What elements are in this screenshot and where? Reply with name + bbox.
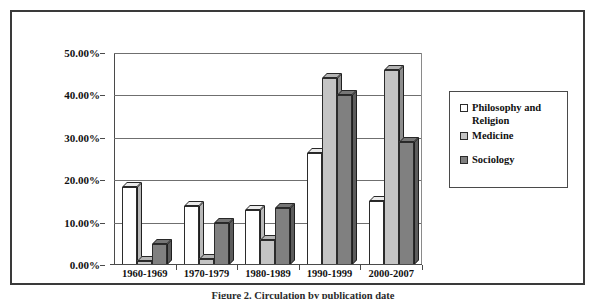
bar-slot [260, 53, 275, 265]
figure-container: 0.00%10.00%20.00%30.00%40.00%50.00% 1960… [0, 0, 606, 299]
x-axis-tick-label: 1970-1979 [184, 268, 230, 279]
bar-slot [152, 53, 167, 265]
bar-slot [275, 53, 290, 265]
bar-slot [384, 53, 399, 265]
y-axis-tick-mark [100, 180, 105, 181]
bar[interactable] [260, 240, 275, 265]
legend-label: Medicine [472, 129, 513, 142]
bar-group [114, 53, 176, 265]
bar-slot [322, 53, 337, 265]
bar[interactable] [245, 210, 260, 265]
y-axis-tick-mark [100, 95, 105, 96]
x-axis-tick-label: 2000-2007 [368, 268, 414, 279]
legend-medicine[interactable]: Medicine [460, 129, 561, 142]
legend-label: Philosophy and Religion [472, 101, 561, 127]
bar[interactable] [184, 206, 199, 265]
x-axis-line [110, 264, 422, 265]
bar-side-face [229, 218, 234, 265]
bar-slot [369, 53, 384, 265]
bar[interactable] [152, 244, 167, 265]
bar-side-face [352, 90, 357, 265]
plot-area [114, 53, 422, 265]
legend-swatch-icon [460, 132, 468, 140]
y-axis-tick-label: 10.00% [64, 217, 100, 229]
bar[interactable] [307, 153, 322, 265]
bar-slot [199, 53, 214, 265]
y-axis-labels: 0.00%10.00%20.00%30.00%40.00%50.00% [12, 53, 108, 265]
y-axis-tick-label: 40.00% [64, 89, 100, 101]
bar-slot [307, 53, 322, 265]
y-axis-tick-mark [100, 138, 105, 139]
bar-side-face [414, 137, 419, 265]
x-axis-tick-label: 1980-1989 [245, 268, 291, 279]
x-axis-tick-label: 1960-1969 [122, 268, 168, 279]
bar-slot [214, 53, 229, 265]
bar-slot [399, 53, 414, 265]
x-axis-labels: 1960-19691970-19791980-19891990-19992000… [114, 268, 422, 284]
bar-groups [114, 53, 422, 265]
bar[interactable] [322, 78, 337, 265]
bar-slot [137, 53, 152, 265]
bar-group [237, 53, 299, 265]
y-axis-tick-label: 0.00% [70, 259, 100, 271]
bar[interactable] [275, 208, 290, 265]
chart-legend: Philosophy and ReligionMedicineSociology [449, 91, 568, 188]
bar[interactable] [384, 70, 399, 265]
bar[interactable] [214, 223, 229, 265]
legend-sociology[interactable]: Sociology [460, 153, 561, 166]
bar[interactable] [369, 201, 384, 265]
bar-group [299, 53, 361, 265]
bar-slot [245, 53, 260, 265]
bar[interactable] [399, 142, 414, 265]
y-axis-tick-mark [100, 265, 105, 266]
bar-side-face [290, 203, 295, 265]
figure-caption: Figure 2. Circulation by publication dat… [0, 290, 606, 299]
legend-philosophy-and-religion[interactable]: Philosophy and Religion [460, 101, 561, 127]
bar-group [176, 53, 238, 265]
y-axis-tick-label: 50.00% [64, 47, 100, 59]
bar[interactable] [122, 187, 137, 265]
legend-label: Sociology [472, 153, 515, 166]
x-axis-tick-label: 1990-1999 [307, 268, 353, 279]
bar-slot [184, 53, 199, 265]
bar[interactable] [337, 95, 352, 265]
legend-swatch-icon [460, 104, 468, 112]
y-axis-tick-label: 30.00% [64, 132, 100, 144]
legend-swatch-icon [460, 156, 468, 164]
bar-slot [122, 53, 137, 265]
y-axis-tick-label: 20.00% [64, 174, 100, 186]
bar-slot [337, 53, 352, 265]
x-axis-tick-mark [422, 265, 423, 270]
y-axis-tick-mark [100, 53, 105, 54]
bar-group [360, 53, 422, 265]
y-axis-tick-mark [100, 223, 105, 224]
figure-frame: 0.00%10.00%20.00%30.00%40.00%50.00% 1960… [10, 10, 585, 285]
